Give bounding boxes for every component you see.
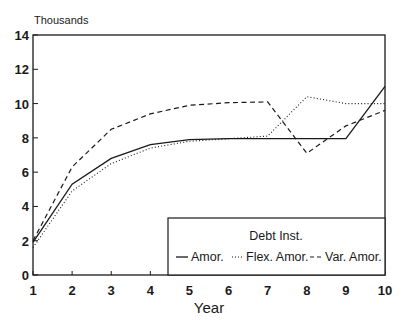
y-tick-label: 10 (15, 97, 29, 112)
x-tick-label: 4 (147, 283, 155, 298)
y-tick-label: 14 (15, 28, 30, 43)
x-tick-label: 9 (342, 283, 349, 298)
x-tick-label: 6 (225, 283, 232, 298)
x-tick-label: 3 (108, 283, 115, 298)
y-tick-label: 2 (22, 234, 29, 249)
legend-entry-amor: Amor. (191, 250, 224, 264)
x-tick-label: 8 (303, 283, 310, 298)
y-tick-label: 12 (15, 62, 29, 77)
x-tick-label: 7 (264, 283, 271, 298)
x-tick-label: 10 (378, 283, 392, 298)
legend-entry-flex-amor: Flex. Amor. (246, 250, 309, 264)
y-tick-label: 8 (22, 131, 29, 146)
y-tick-label: 6 (22, 165, 29, 180)
legend-box (168, 218, 385, 275)
x-axis-title: Year (194, 299, 224, 316)
x-tick-label: 2 (68, 283, 75, 298)
units-label: Thousands (34, 14, 89, 26)
legend: Debt Inst. Amor. Flex. Amor. Var. Amor. (168, 218, 385, 275)
x-tick-label: 1 (29, 283, 36, 298)
x-tick-label: 5 (186, 283, 193, 298)
line-chart: Thousands 02468101214 12345678910 Debt I… (0, 0, 408, 332)
legend-entry-var-amor: Var. Amor. (325, 250, 382, 264)
legend-title: Debt Inst. (249, 229, 303, 243)
y-tick-label: 0 (22, 268, 29, 283)
y-axis: 02468101214 (15, 28, 38, 283)
y-tick-label: 4 (22, 199, 30, 214)
